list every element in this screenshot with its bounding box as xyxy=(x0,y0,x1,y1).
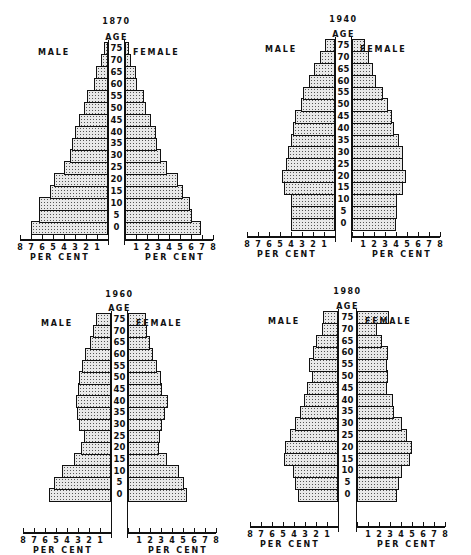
male-bar xyxy=(79,114,108,127)
x-axis-label-female: PER CENT xyxy=(145,253,205,262)
age-label: 60 xyxy=(341,348,355,357)
female-bar xyxy=(352,98,388,111)
axis-tick xyxy=(100,528,101,533)
female-bar xyxy=(357,465,402,478)
tick-label: 6 xyxy=(40,536,50,545)
tick-label: 6 xyxy=(264,240,274,249)
female-bar xyxy=(125,161,167,174)
age-label: 15 xyxy=(337,183,351,192)
female-bar xyxy=(352,122,394,135)
female-bar xyxy=(357,453,410,466)
axis-tick xyxy=(407,232,408,237)
male-bar xyxy=(295,110,335,123)
tick-label: 6 xyxy=(189,536,199,545)
axis-tick xyxy=(64,235,65,240)
age-label: 15 xyxy=(341,455,355,464)
age-label: 70 xyxy=(341,325,355,334)
axis-tick xyxy=(56,528,57,533)
male-bar xyxy=(62,465,112,478)
x-axis-label-female: PER CENT xyxy=(148,546,208,555)
female-bar xyxy=(128,465,179,478)
female-bar xyxy=(125,102,146,115)
axis-tick xyxy=(357,522,358,527)
tick-label: 2 xyxy=(142,243,152,252)
tick-label: 2 xyxy=(145,536,155,545)
axis-tick xyxy=(172,528,173,533)
tick-label: 7 xyxy=(256,530,266,539)
age-label: 55 xyxy=(110,92,124,101)
male-bar xyxy=(298,488,338,501)
tick-label: 4 xyxy=(62,536,72,545)
male-bar xyxy=(291,205,335,218)
male-bar xyxy=(301,98,335,111)
tick-label: 4 xyxy=(391,240,401,249)
age-label: 70 xyxy=(113,327,127,336)
tick-label: 7 xyxy=(26,243,36,252)
male-bar xyxy=(85,348,111,361)
tick-label: 7 xyxy=(197,243,207,252)
tick-label: 2 xyxy=(84,536,94,545)
axis-tick xyxy=(429,232,430,237)
axis-tick xyxy=(97,235,98,240)
tick-label: 1 xyxy=(322,530,332,539)
tick-label: 8 xyxy=(211,536,221,545)
male-bar xyxy=(309,75,335,88)
tick-label: 8 xyxy=(435,240,445,249)
tick-label: 8 xyxy=(242,240,252,249)
tick-label: 1 xyxy=(358,240,368,249)
male-bar xyxy=(316,335,338,348)
tick-label: 5 xyxy=(51,536,61,545)
tick-label: 3 xyxy=(73,536,83,545)
age-label: 70 xyxy=(337,53,351,62)
female-bar xyxy=(125,114,151,127)
female-bar xyxy=(357,346,388,359)
axis-tick xyxy=(434,522,435,527)
male-bar xyxy=(54,477,111,490)
age-label: 25 xyxy=(113,432,127,441)
axis-tick xyxy=(108,235,109,240)
female-bar xyxy=(125,197,190,210)
male-bar xyxy=(79,418,111,431)
male-bar xyxy=(74,453,111,466)
axis-tick xyxy=(401,522,402,527)
male-bar xyxy=(49,488,111,501)
tick-label: 7 xyxy=(29,536,39,545)
axis-tick xyxy=(89,528,90,533)
axis-tick xyxy=(412,522,413,527)
axis-tick xyxy=(42,235,43,240)
age-label: 65 xyxy=(341,337,355,346)
male-bar xyxy=(75,126,108,139)
male-bar xyxy=(290,429,338,442)
tick-label: 4 xyxy=(286,240,296,249)
axis-tick xyxy=(272,522,273,527)
male-bar xyxy=(285,441,338,454)
female-label: FEMALE xyxy=(365,317,411,326)
male-bar xyxy=(307,382,338,395)
male-label: MALE xyxy=(41,319,73,328)
age-label: 45 xyxy=(337,112,351,121)
axis-tick xyxy=(213,235,214,240)
tick-label: 7 xyxy=(424,240,434,249)
female-bar xyxy=(357,370,388,383)
pyramid-panel-1980: 1980AGE051015202530354045505560657075MAL… xyxy=(236,280,471,550)
male-bar xyxy=(82,360,111,373)
age-label: 40 xyxy=(337,124,351,133)
female-label: FEMALE xyxy=(360,45,406,54)
axis-tick xyxy=(324,232,325,237)
x-axis-label-female: PER CENT xyxy=(372,250,432,259)
pyramid-panel-1940: 1940AGE051015202530354045505560657075MAL… xyxy=(236,0,471,270)
age-label: 15 xyxy=(110,187,124,196)
age-label: 35 xyxy=(113,408,127,417)
tick-label: 3 xyxy=(70,243,80,252)
tick-label: 8 xyxy=(15,243,25,252)
female-bar xyxy=(125,90,144,103)
axis-tick xyxy=(111,528,112,533)
female-bar xyxy=(128,418,162,431)
age-label: 25 xyxy=(341,431,355,440)
female-bar xyxy=(352,146,403,159)
female-label: FEMALE xyxy=(136,319,182,328)
age-label: 45 xyxy=(113,385,127,394)
age-label: 20 xyxy=(337,172,351,181)
male-bar xyxy=(320,51,335,64)
female-bar xyxy=(125,149,161,162)
